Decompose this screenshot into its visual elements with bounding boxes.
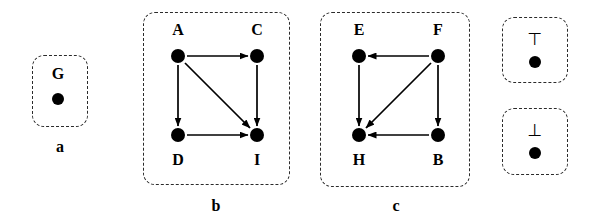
node-label-c: C [251,22,263,38]
node-label-f: F [433,22,443,38]
panel-b-box [143,12,290,185]
panel-bottom-box [502,108,568,175]
panel-a-caption: a [56,139,64,155]
panel-c-caption: c [392,198,399,214]
panel-c-box [320,12,470,187]
panel-top-box [502,17,568,83]
node-label-top-symbol: ⊤ [528,31,543,48]
node-label-bottom-symbol: ⊥ [528,122,543,139]
node-label-a: A [172,22,184,38]
node-label-i: I [254,152,260,168]
node-label-h: H [353,152,365,168]
figure-canvas: G A C D I E F H B ⊤ ⊥ a b c [0,0,589,224]
node-label-e: E [354,22,365,38]
node-label-d: D [172,152,184,168]
node-label-g: G [52,66,64,82]
node-label-b: B [433,152,444,168]
graph-drawing-layer [0,0,589,224]
panel-b-caption: b [212,198,221,214]
